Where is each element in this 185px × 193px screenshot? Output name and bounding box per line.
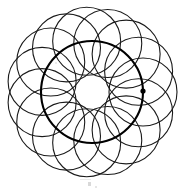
scan-speck-upper-left xyxy=(55,62,57,64)
figure-canvas: Rosette of overlapping circles xyxy=(0,0,185,193)
scan-speck-lower-right xyxy=(95,186,97,188)
center-marker-dot xyxy=(140,88,145,93)
rosette-figure xyxy=(0,0,185,193)
scan-speck-lower-center xyxy=(88,182,91,186)
scan-smudge-bottom xyxy=(80,179,91,180)
